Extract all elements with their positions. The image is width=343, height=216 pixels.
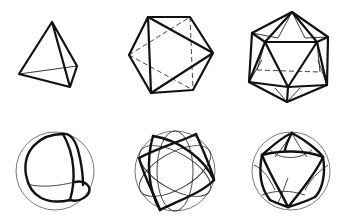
spherical-tetrahedron (16, 132, 94, 210)
spherical-icosahedron (252, 132, 330, 210)
polyhedra-figure (0, 0, 343, 216)
octahedron (129, 17, 213, 93)
icosahedron (249, 12, 328, 102)
tetrahedron (19, 22, 77, 87)
spherical-octahedron (131, 131, 218, 211)
figure-canvas (0, 0, 343, 216)
